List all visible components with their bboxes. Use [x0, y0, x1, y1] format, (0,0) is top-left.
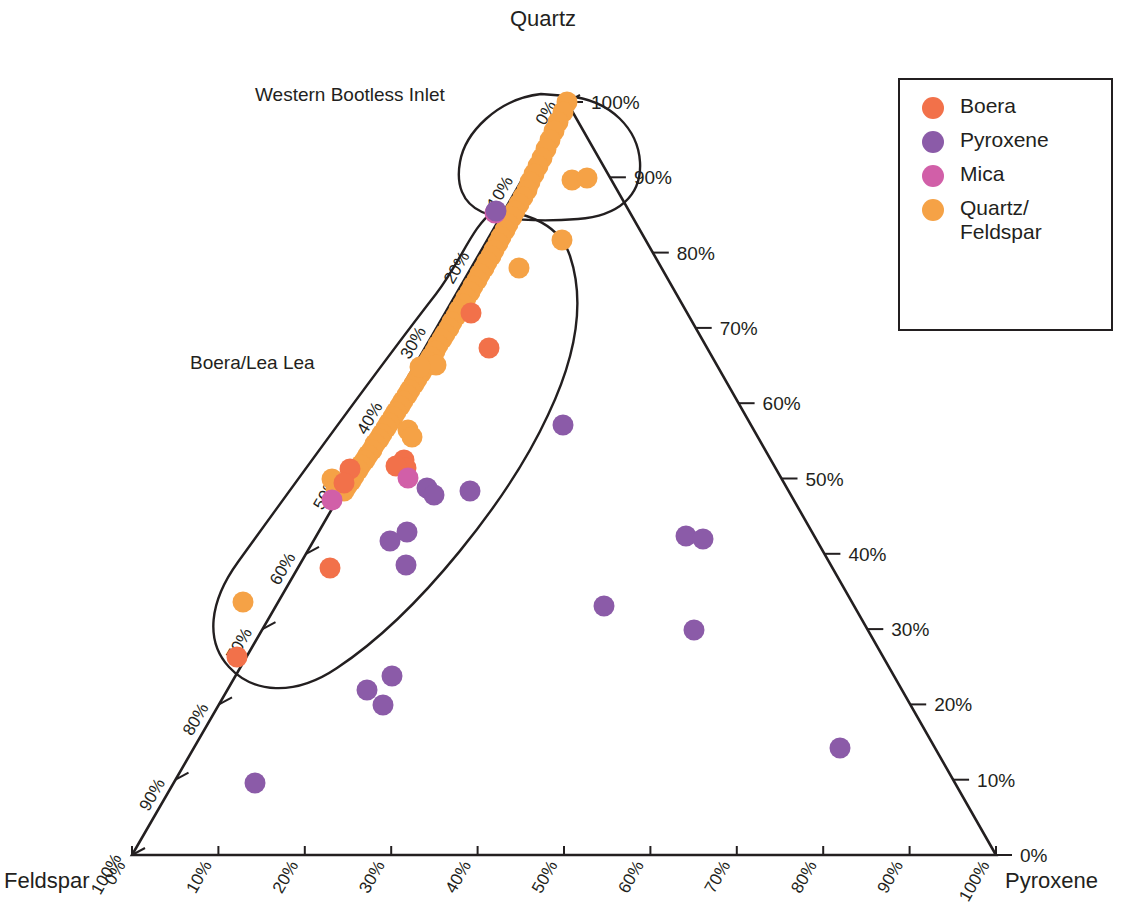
- legend-item-mica[interactable]: Mica: [922, 162, 1111, 187]
- right-axis-tick-label: 50%: [806, 469, 844, 490]
- data-point: [424, 485, 445, 506]
- right-axis-tick-label: 60%: [763, 393, 801, 414]
- data-point: [357, 680, 378, 701]
- data-point: [245, 773, 266, 794]
- legend-swatch-icon: [922, 97, 944, 119]
- legend-swatch-icon: [922, 199, 944, 221]
- data-point: [227, 647, 248, 668]
- bottom-axis-tick-label: 10%: [182, 858, 215, 897]
- data-point: [460, 481, 481, 502]
- bottom-axis-tick-label: 100%: [955, 858, 993, 905]
- right-axis-tick-label: 100%: [591, 92, 640, 113]
- data-point: [486, 201, 507, 222]
- legend-box: BoeraPyroxeneMicaQuartz/ Feldspar: [898, 78, 1113, 331]
- data-point: [396, 555, 417, 576]
- left-axis-tick-label: 60%: [266, 549, 299, 588]
- legend-item-label: Quartz/ Feldspar: [960, 196, 1042, 243]
- data-point: [334, 473, 355, 494]
- vertex-label-feldspar: Feldspar: [4, 868, 90, 894]
- triangle-border: [132, 102, 996, 855]
- data-point: [553, 415, 574, 436]
- data-point: [830, 738, 851, 759]
- data-point: [552, 230, 573, 251]
- data-point: [684, 620, 705, 641]
- bottom-axis-tick-label: 50%: [528, 858, 561, 897]
- data-point: [382, 666, 403, 687]
- annotation-western-bootless-inlet: Western Bootless Inlet: [255, 84, 445, 106]
- data-points: [227, 92, 851, 794]
- data-point: [402, 427, 423, 448]
- data-point: [410, 357, 431, 378]
- data-point: [461, 303, 482, 324]
- legend-item-label: Boera: [960, 94, 1016, 118]
- data-point: [320, 558, 341, 579]
- bottom-axis-tick-label: 30%: [355, 858, 388, 897]
- data-point: [577, 168, 598, 189]
- legend-item-label: Pyroxene: [960, 128, 1049, 152]
- data-point: [398, 468, 419, 489]
- right-axis-tick-label: 10%: [977, 770, 1015, 791]
- data-point: [594, 596, 615, 617]
- data-point: [479, 338, 500, 359]
- legend-item-pyroxene[interactable]: Pyroxene: [922, 128, 1111, 153]
- data-point: [233, 592, 254, 613]
- right-axis-tick-label: 30%: [891, 619, 929, 640]
- right-axis-tick-label: 40%: [848, 544, 886, 565]
- vertex-label-pyroxene: Pyroxene: [1005, 868, 1098, 894]
- left-axis-tick-label: 90%: [135, 775, 168, 814]
- legend-item-boera[interactable]: Boera: [922, 94, 1111, 119]
- right-axis-tick-label: 20%: [934, 694, 972, 715]
- legend-item-label: Mica: [960, 162, 1004, 186]
- data-point: [322, 490, 343, 511]
- outline-boera-lea-lea: [213, 211, 577, 688]
- data-point: [373, 695, 394, 716]
- annotation-boera-lea-lea: Boera/Lea Lea: [190, 352, 315, 374]
- data-point: [380, 531, 401, 552]
- legend-swatch-icon: [922, 131, 944, 153]
- legend-item-quartz-feldspar[interactable]: Quartz/ Feldspar: [922, 196, 1111, 243]
- data-point: [509, 258, 530, 279]
- right-axis-tick-label: 80%: [677, 243, 715, 264]
- vertex-label-quartz: Quartz: [510, 6, 576, 32]
- data-point: [693, 529, 714, 550]
- bottom-axis-tick-label: 70%: [701, 858, 734, 897]
- bottom-axis-tick-label: 20%: [269, 858, 302, 897]
- bottom-axis-tick-label: 40%: [442, 858, 475, 897]
- ternary-chart-canvas: 0%10%20%30%40%50%60%70%80%90%100% 100%90…: [0, 0, 1123, 909]
- bottom-axis-tick-label: 80%: [787, 858, 820, 897]
- right-axis-tick-label: 0%: [1020, 845, 1048, 866]
- bottom-axis-tick-label: 90%: [874, 858, 907, 897]
- right-axis-tick-label: 70%: [720, 318, 758, 339]
- left-axis-tick-label: 80%: [179, 700, 212, 739]
- triangle-outline: [132, 102, 996, 855]
- legend-swatch-icon: [922, 165, 944, 187]
- bottom-axis-tick-label: 60%: [614, 858, 647, 897]
